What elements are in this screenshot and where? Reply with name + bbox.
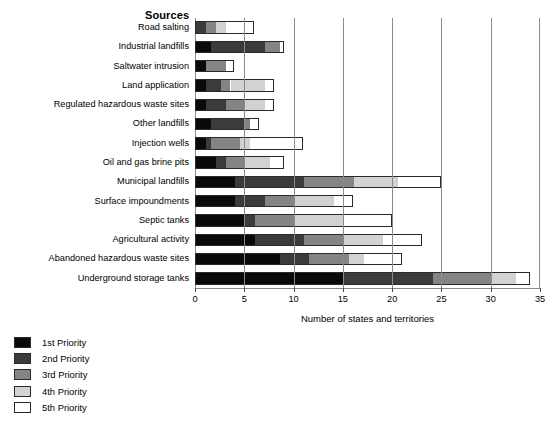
stacked-bar xyxy=(195,79,274,91)
bar-segment xyxy=(196,254,280,264)
bar-segment xyxy=(280,254,310,264)
stacked-bar xyxy=(195,176,441,188)
bar-segment xyxy=(245,100,265,110)
bar-segment xyxy=(196,177,235,187)
bar-segment xyxy=(492,273,517,283)
x-axis-tick xyxy=(491,288,492,292)
bar-segment xyxy=(206,100,226,110)
x-axis-tick-label: 15 xyxy=(328,294,358,304)
bar-segment xyxy=(265,42,280,52)
bar-segment xyxy=(216,157,226,167)
bar-segment xyxy=(231,80,266,90)
x-axis-tick xyxy=(343,288,344,292)
bar-segment xyxy=(516,273,530,283)
bar-segment xyxy=(221,80,231,90)
bar-segment xyxy=(295,215,344,225)
bar-segment xyxy=(196,42,211,52)
stacked-bar xyxy=(195,253,402,265)
category-label: Surface impoundments xyxy=(0,192,189,211)
bar-segment xyxy=(265,80,274,90)
bar-segment xyxy=(270,157,284,167)
stacked-bar xyxy=(195,118,259,130)
legend-swatch xyxy=(14,386,31,397)
legend-swatch xyxy=(14,402,31,413)
bar-segment xyxy=(196,138,206,148)
category-label: Municipal landfills xyxy=(0,172,189,191)
legend-label: 3rd Priority xyxy=(42,369,87,380)
bar-segment xyxy=(250,138,303,148)
legend-label: 4th Priority xyxy=(42,386,87,397)
category-label: Septic tanks xyxy=(0,211,189,230)
stacked-bar xyxy=(195,195,353,207)
bar-segment xyxy=(265,196,295,206)
bar-segment xyxy=(255,215,294,225)
bar-segment xyxy=(196,61,206,71)
bar-segment xyxy=(206,22,216,32)
legend-swatch xyxy=(14,369,31,380)
bar-segment xyxy=(196,22,206,32)
bar-segment xyxy=(255,235,304,245)
gridline xyxy=(244,18,245,288)
x-axis-tick xyxy=(195,288,196,292)
bar-segment xyxy=(211,42,265,52)
bar-segment xyxy=(295,196,334,206)
bar-row: Land application xyxy=(195,76,540,95)
bar-segment xyxy=(216,22,226,32)
bar-segment xyxy=(304,177,353,187)
legend-item: 5th Priority xyxy=(14,400,89,416)
bar-segment xyxy=(235,196,265,206)
bar-row: Municipal landfills xyxy=(195,172,540,191)
category-label: Injection wells xyxy=(0,134,189,153)
x-axis-tick-label: 5 xyxy=(229,294,259,304)
category-label: Road salting xyxy=(0,18,189,37)
bar-row: Other landfills xyxy=(195,114,540,133)
gridline xyxy=(343,18,344,288)
bar-segment xyxy=(196,119,211,129)
bar-segment xyxy=(280,42,284,52)
legend-item: 4th Priority xyxy=(14,383,89,399)
category-label: Abandoned hazardous waste sites xyxy=(0,249,189,268)
bar-segment xyxy=(196,196,235,206)
bar-segment xyxy=(196,273,344,283)
bar-row: Septic tanks xyxy=(195,211,540,230)
gridline xyxy=(441,18,442,288)
plot-area: Road saltingIndustrial landfillsSaltwate… xyxy=(195,18,540,288)
legend-item: 3rd Priority xyxy=(14,367,89,383)
bar-segment xyxy=(226,100,246,110)
stacked-bar xyxy=(195,234,422,246)
bar-segment xyxy=(383,235,421,245)
gridline xyxy=(392,18,393,288)
bar-segment xyxy=(349,254,364,264)
bar-segment xyxy=(196,157,216,167)
stacked-bar xyxy=(195,41,284,53)
bar-row: Injection wells xyxy=(195,134,540,153)
bar-row: Industrial landfills xyxy=(195,37,540,56)
bar-row: Underground storage tanks xyxy=(195,269,540,288)
bar-segment xyxy=(250,119,259,129)
legend-item: 2nd Priority xyxy=(14,350,89,366)
category-label: Oil and gas brine pits xyxy=(0,153,189,172)
bar-segment xyxy=(344,215,392,225)
bar-segment xyxy=(245,157,270,167)
x-axis-tick-label: 30 xyxy=(476,294,506,304)
bar-segment xyxy=(364,254,402,264)
gridline xyxy=(294,18,295,288)
category-label: Agricultural activity xyxy=(0,230,189,249)
x-axis-tick xyxy=(244,288,245,292)
bar-segment xyxy=(398,177,441,187)
bar-row: Surface impoundments xyxy=(195,192,540,211)
x-axis-tick-label: 25 xyxy=(426,294,456,304)
bar-segment xyxy=(196,215,245,225)
bar-segment xyxy=(226,61,235,71)
bar-row: Abandoned hazardous waste sites xyxy=(195,249,540,268)
legend-label: 1st Priority xyxy=(42,337,86,348)
x-axis-tick xyxy=(392,288,393,292)
bar-row: Saltwater intrusion xyxy=(195,57,540,76)
bar-segment xyxy=(344,273,433,283)
bar-segment xyxy=(196,235,255,245)
x-axis-tick-label: 35 xyxy=(525,294,555,304)
category-label: Saltwater intrusion xyxy=(0,57,189,76)
x-axis-tick-label: 0 xyxy=(180,294,210,304)
stacked-bar xyxy=(195,99,274,111)
bar-segment xyxy=(211,138,241,148)
